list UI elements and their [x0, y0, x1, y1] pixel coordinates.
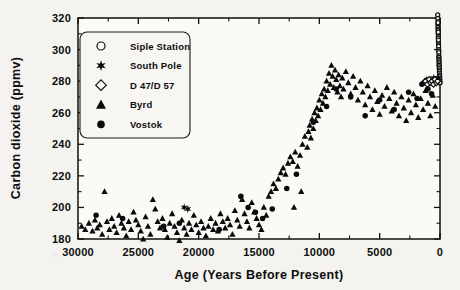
marker-open-circle	[97, 42, 105, 50]
x-tick-label: 15000	[243, 246, 275, 258]
x-tick-label: 20000	[183, 246, 215, 258]
marker-filled-circle	[97, 121, 105, 129]
marker-filled-circle	[93, 213, 99, 219]
marker-filled-circle	[419, 82, 425, 88]
legend-label: Byrd	[130, 99, 152, 110]
x-tick-label: 10000	[304, 246, 336, 258]
y-tick-label: 200	[52, 201, 71, 213]
marker-filled-circle	[348, 94, 354, 100]
x-axis-title: Age (Years Before Present)	[175, 268, 344, 282]
marker-open-circle	[436, 21, 440, 25]
marker-filled-circle	[294, 172, 300, 178]
legend-label: South Pole	[130, 60, 182, 71]
co2-ice-core-scatter-chart: 300002500020000150001000050000 180200220…	[0, 0, 460, 290]
marker-filled-circle	[414, 96, 420, 102]
marker-filled-circle	[324, 104, 330, 110]
y-tick-label: 240	[52, 138, 71, 150]
marker-filled-circle	[216, 227, 222, 233]
marker-filled-circle	[311, 119, 317, 125]
marker-filled-circle	[260, 216, 266, 222]
y-tick-label: 300	[52, 44, 71, 56]
x-tick-label: 30000	[62, 246, 94, 258]
x-tick-label: 5000	[367, 246, 392, 258]
marker-filled-circle	[429, 91, 435, 97]
y-tick-label: 260	[52, 107, 71, 119]
legend-label: D 47/D 57	[130, 80, 175, 91]
marker-filled-circle	[425, 86, 431, 92]
marker-filled-circle	[238, 194, 244, 200]
marker-filled-circle	[377, 97, 383, 103]
marker-open-circle	[436, 30, 440, 34]
marker-filled-circle	[177, 220, 183, 226]
chart-legend: Siple StationSouth PoleD 47/D 57ByrdVost…	[80, 32, 190, 138]
y-tick-label: 280	[52, 75, 71, 87]
marker-filled-circle	[406, 89, 412, 95]
marker-filled-circle	[391, 107, 397, 113]
marker-filled-circle	[253, 209, 259, 215]
y-tick-label: 320	[52, 12, 71, 24]
marker-filled-circle	[284, 186, 290, 192]
y-axis-title: Carbon dioxide (ppmv)	[9, 57, 23, 199]
y-tick-label: 180	[52, 233, 71, 245]
legend-label: Vostok	[130, 119, 163, 130]
marker-filled-circle	[270, 206, 276, 212]
marker-filled-circle	[120, 216, 126, 222]
x-tick-label: 0	[437, 246, 443, 258]
marker-open-circle	[436, 38, 440, 42]
marker-filled-circle	[245, 205, 251, 211]
marker-filled-circle	[161, 224, 167, 230]
marker-filled-circle	[333, 86, 339, 92]
marker-open-circle	[436, 13, 440, 17]
x-tick-label: 25000	[123, 246, 155, 258]
y-tick-label: 220	[52, 170, 71, 182]
legend-label: Siple Station	[130, 41, 190, 52]
marker-filled-circle	[362, 113, 368, 119]
